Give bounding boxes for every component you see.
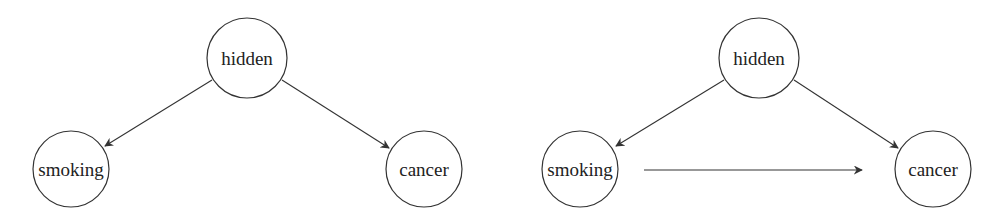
node-label: smoking [547, 159, 613, 180]
node-label: smoking [38, 159, 104, 180]
edge-hidden-to-cancer [282, 80, 389, 148]
node-hidden: hidden [719, 18, 799, 98]
causal-diagrams: hidden smoking cancer hidden smoking can… [0, 0, 997, 220]
node-smoking: smoking [542, 131, 618, 207]
node-cancer: cancer [386, 131, 462, 207]
right-diagram: hidden smoking cancer [542, 18, 971, 207]
edge-hidden-to-smoking [616, 80, 724, 146]
node-label: hidden [733, 48, 785, 69]
edge-hidden-to-smoking [105, 80, 212, 146]
node-label: cancer [908, 159, 958, 180]
edge-hidden-to-cancer [794, 80, 898, 148]
node-hidden: hidden [207, 18, 287, 98]
node-smoking: smoking [33, 131, 109, 207]
left-diagram: hidden smoking cancer [33, 18, 462, 207]
node-label: hidden [221, 48, 273, 69]
node-label: cancer [399, 159, 449, 180]
node-cancer: cancer [895, 131, 971, 207]
